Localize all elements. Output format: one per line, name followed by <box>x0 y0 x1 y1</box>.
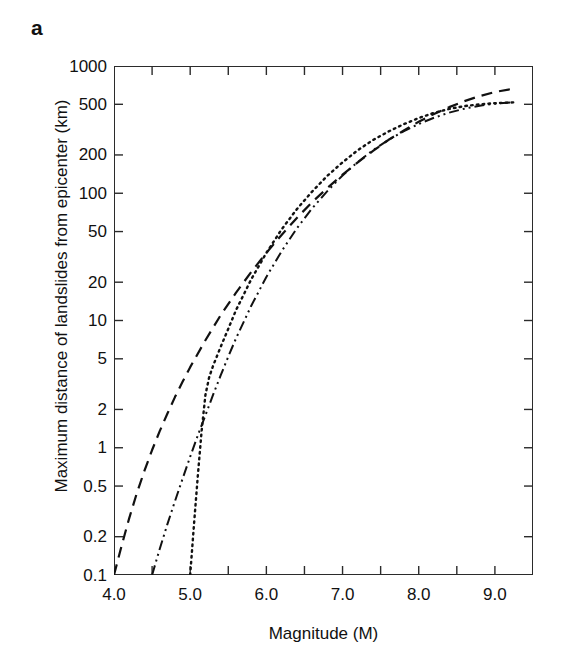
x-axis-tick-label: 8.0 <box>389 586 449 603</box>
x-axis-tick-label: 9.0 <box>465 586 525 603</box>
y-axis-tick-label: 1000 <box>59 58 107 75</box>
y-axis-tick-label: 0.1 <box>59 567 107 584</box>
y-axis-tick-label: 500 <box>59 96 107 113</box>
y-axis-tick-label: 0.5 <box>59 478 107 495</box>
x-axis-tick-label: 7.0 <box>313 586 373 603</box>
y-axis-tick-label: 2 <box>59 401 107 418</box>
x-axis-tick-label: 6.0 <box>236 586 296 603</box>
y-axis-tick-label: 10 <box>59 312 107 329</box>
plot-canvas <box>114 66 533 575</box>
y-axis-tick-label: 100 <box>59 185 107 202</box>
x-axis-tick-label: 4.0 <box>84 586 144 603</box>
x-axis-tick-labels: 4.05.06.07.08.09.0 <box>0 586 567 610</box>
y-axis-tick-label: 1 <box>59 439 107 456</box>
panel-label: a <box>31 17 43 38</box>
figure-panel-a: a Maximum distance of landslides from ep… <box>0 0 567 664</box>
y-axis-tick-label: 5 <box>59 350 107 367</box>
y-axis-tick-label: 20 <box>59 274 107 291</box>
x-axis-title: Magnitude (M) <box>114 624 533 644</box>
y-axis-tick-label: 50 <box>59 223 107 240</box>
x-axis-tick-label: 5.0 <box>160 586 220 603</box>
curve-dashed <box>114 89 514 575</box>
y-axis-tick-labels: 0.10.20.51251020501002005001000 <box>57 0 107 664</box>
y-axis-tick-label: 0.2 <box>59 528 107 545</box>
curve-dotted <box>190 102 514 575</box>
y-axis-tick-label: 200 <box>59 146 107 163</box>
